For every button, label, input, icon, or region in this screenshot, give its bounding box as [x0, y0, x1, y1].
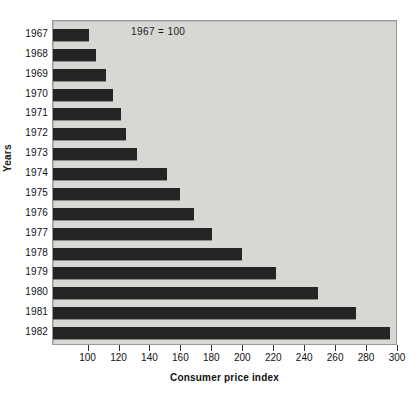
y-tick-label: 1979 — [18, 263, 50, 283]
bar — [53, 69, 106, 81]
bar-row — [53, 244, 396, 264]
bar — [53, 208, 194, 220]
x-tick-label: 260 — [327, 352, 344, 363]
bar — [53, 29, 89, 41]
x-tick-label: 160 — [172, 352, 189, 363]
bar-row — [53, 303, 396, 323]
x-tick-mark — [304, 345, 305, 351]
x-tick-label: 220 — [265, 352, 282, 363]
x-tick-mark — [119, 345, 120, 351]
y-tick-label: 1978 — [18, 243, 50, 263]
y-tick-label: 1977 — [18, 223, 50, 243]
x-tick-mark — [211, 345, 212, 351]
bar — [53, 307, 356, 319]
x-tick-mark — [180, 345, 181, 351]
x-tick-mark — [366, 345, 367, 351]
x-tick-mark — [397, 345, 398, 351]
y-axis-tick-labels: 1967196819691970197119721973197419751976… — [18, 24, 50, 342]
bar — [53, 287, 318, 299]
x-tick-label: 100 — [79, 352, 96, 363]
bar — [53, 49, 96, 61]
y-tick-label: 1975 — [18, 183, 50, 203]
y-tick-label: 1980 — [18, 282, 50, 302]
bar-row — [53, 224, 396, 244]
y-axis-title: Years — [2, 158, 13, 172]
bar — [53, 148, 137, 160]
bars-layer — [53, 25, 396, 343]
y-tick-label: 1967 — [18, 24, 50, 44]
y-tick-label: 1973 — [18, 143, 50, 163]
y-tick-label: 1974 — [18, 163, 50, 183]
x-tick-label: 240 — [296, 352, 313, 363]
y-tick-label: 1972 — [18, 123, 50, 143]
x-tick-mark — [242, 345, 243, 351]
x-tick-label: 200 — [234, 352, 251, 363]
y-tick-label: 1969 — [18, 64, 50, 84]
bar-row — [53, 124, 396, 144]
bar — [53, 267, 276, 279]
y-tick-label: 1976 — [18, 203, 50, 223]
x-tick-mark — [273, 345, 274, 351]
bar-row — [53, 45, 396, 65]
y-tick-label: 1981 — [18, 302, 50, 322]
y-tick-label: 1968 — [18, 44, 50, 64]
x-axis-tick-labels: 100120140160180200220240260280300 — [52, 352, 397, 366]
bar — [53, 168, 167, 180]
bar-row — [53, 105, 396, 125]
bar-row — [53, 164, 396, 184]
x-tick-label: 120 — [110, 352, 127, 363]
bar — [53, 327, 390, 339]
x-axis-title: Consumer price index — [52, 372, 397, 383]
bar-row — [53, 264, 396, 284]
y-tick-label: 1982 — [18, 322, 50, 342]
y-tick-label: 1970 — [18, 84, 50, 104]
x-tick-label: 140 — [141, 352, 158, 363]
x-axis-ticks — [52, 345, 397, 352]
bar — [53, 228, 212, 240]
bar — [53, 89, 113, 101]
x-tick-mark — [335, 345, 336, 351]
bar — [53, 248, 242, 260]
bar-row — [53, 25, 396, 45]
bar — [53, 188, 180, 200]
x-tick-mark — [88, 345, 89, 351]
bar-row — [53, 283, 396, 303]
x-tick-label: 280 — [358, 352, 375, 363]
y-tick-label: 1971 — [18, 104, 50, 124]
x-tick-mark — [149, 345, 150, 351]
bar-row — [53, 85, 396, 105]
bar — [53, 128, 126, 140]
bar-row — [53, 144, 396, 164]
bar-row — [53, 204, 396, 224]
x-tick-label: 180 — [203, 352, 220, 363]
consumer-price-index-chart: Years 1967196819691970197119721973197419… — [0, 0, 414, 399]
bar-row — [53, 323, 396, 343]
bar-row — [53, 65, 396, 85]
bar-row — [53, 184, 396, 204]
x-tick-label: 300 — [389, 352, 406, 363]
bar — [53, 108, 121, 120]
plot-panel: 1967 = 100 — [52, 20, 397, 345]
